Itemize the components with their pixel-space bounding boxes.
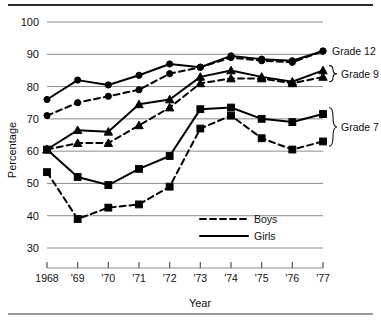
data-point-marker [44,146,51,153]
series-annotation-label: Grade 12 [332,45,376,57]
data-point-marker [320,111,327,118]
x-tick-label: '76 [285,272,299,284]
x-tick-label: '72 [163,272,177,284]
y-tick-labels-group: 30405060708090100 [21,16,39,254]
data-point-marker [165,103,173,111]
data-point-marker [44,96,50,102]
data-point-marker [227,66,235,74]
data-point-marker [136,72,142,78]
y-axis-title: Percentage [6,122,18,178]
x-axis-title: Year [189,297,212,309]
x-tick-label: '69 [71,272,85,284]
y-tick-label: 50 [27,177,39,189]
data-point-marker [136,87,142,93]
series-line [47,51,323,99]
y-tick-label: 100 [21,16,39,28]
x-tick-label: '70 [101,272,115,284]
data-point-marker [258,115,265,122]
y-tick-label: 40 [27,210,39,222]
data-point-marker [44,113,50,119]
data-point-marker [135,121,143,129]
x-tick-label: '71 [132,272,146,284]
data-point-marker [105,93,111,99]
legend-label: Girls [254,230,276,242]
data-point-marker [105,204,112,211]
data-point-marker [167,71,173,77]
data-point-marker [320,48,326,54]
data-point-marker [104,139,112,147]
series-annotation-label: Grade 7 [341,121,379,133]
data-point-marker [197,106,204,113]
data-point-marker [197,64,203,70]
data-point-marker [167,61,173,67]
data-point-marker [105,182,112,189]
data-point-marker [105,82,111,88]
data-point-marker [258,135,265,142]
data-point-marker [228,54,234,60]
y-tick-label: 90 [27,48,39,60]
data-point-marker [320,138,327,145]
x-tick-label: '74 [224,272,238,284]
x-tick-label: 1968 [35,272,59,284]
data-point-marker [166,153,173,160]
y-tick-label: 80 [27,81,39,93]
y-tick-label: 70 [27,113,39,125]
data-point-marker [44,169,51,176]
data-point-marker [289,119,296,126]
legend-group: BoysGirls [200,213,277,242]
series-markers-group [43,48,327,222]
data-point-marker [74,216,81,223]
x-axis-group [47,262,323,268]
gridlines-group [47,22,323,248]
annotation-brace [329,66,337,82]
y-tick-label: 60 [27,145,39,157]
data-point-marker [289,146,296,153]
data-point-marker [289,59,295,65]
legend-label: Boys [254,213,277,225]
data-point-marker [136,201,143,208]
line-chart: 30405060708090100 1968'69'70'71'72'73'74… [0,0,381,323]
data-point-marker [228,112,235,119]
data-point-marker [197,125,204,132]
data-point-marker [75,100,81,106]
chart-figure: 30405060708090100 1968'69'70'71'72'73'74… [0,0,381,323]
data-point-marker [259,58,265,64]
data-point-marker [166,183,173,190]
series-lines-group [47,51,323,219]
annotation-brace [329,108,337,147]
x-tick-label: '77 [316,272,330,284]
x-tick-label: '75 [255,272,269,284]
series-annotation-label: Grade 9 [341,68,379,80]
y-tick-label: 30 [27,242,39,254]
x-tick-label: '73 [193,272,207,284]
data-point-marker [136,166,143,173]
data-point-marker [74,174,81,181]
data-point-marker [75,77,81,83]
data-point-marker [228,104,235,111]
series-annotations-group: Grade 12Grade 9Grade 7 [329,45,379,146]
x-tick-labels-group: 1968'69'70'71'72'73'74'75'76'77 [35,272,330,284]
